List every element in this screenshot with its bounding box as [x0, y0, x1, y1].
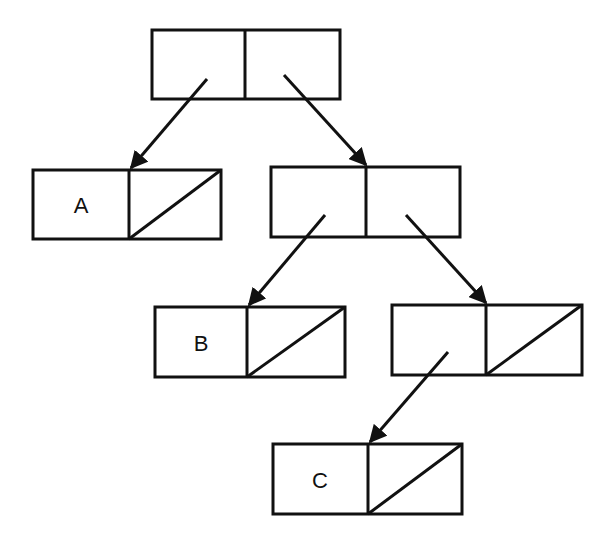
pointer-arrow-cell3-car	[370, 352, 448, 442]
nil-slash	[368, 444, 462, 514]
pointer-arrow-cell2-cdr	[406, 215, 486, 303]
cons-cell-a	[33, 170, 221, 239]
cons-cell-b	[155, 307, 345, 377]
cons-cell-root	[152, 30, 340, 99]
nil-slash	[486, 305, 582, 375]
pointer-arrow-root-car	[131, 79, 207, 168]
pointer-arrow-root-cdr	[284, 75, 366, 165]
cons-cell-2	[271, 167, 460, 237]
atom-label-a: A	[74, 193, 89, 218]
cons-cell-c	[273, 444, 462, 514]
box-pointer-diagram: A B C	[0, 0, 616, 550]
nil-slash	[247, 307, 345, 377]
atom-label-b: B	[194, 331, 209, 356]
pointer-arrow-cell2-car	[249, 215, 325, 305]
nil-slash	[129, 170, 221, 239]
atom-label-c: C	[312, 468, 328, 493]
cons-cell-3	[392, 305, 582, 375]
